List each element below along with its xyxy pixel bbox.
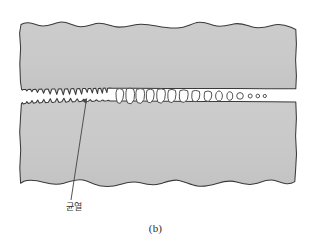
material-upper-half [20,22,297,95]
void-14 [256,94,260,98]
void-13 [248,94,252,98]
void-10 [216,91,223,101]
void-11 [227,92,233,100]
figure-panel-b: 균열 (b) [0,0,311,248]
void-12 [237,93,244,100]
void-15 [263,94,266,97]
crack-label: 균열 [52,202,96,213]
crack-void-illustration [0,0,311,248]
void-2 [126,88,135,104]
material-lower-half [20,98,297,186]
figure-caption: (b) [0,222,311,234]
